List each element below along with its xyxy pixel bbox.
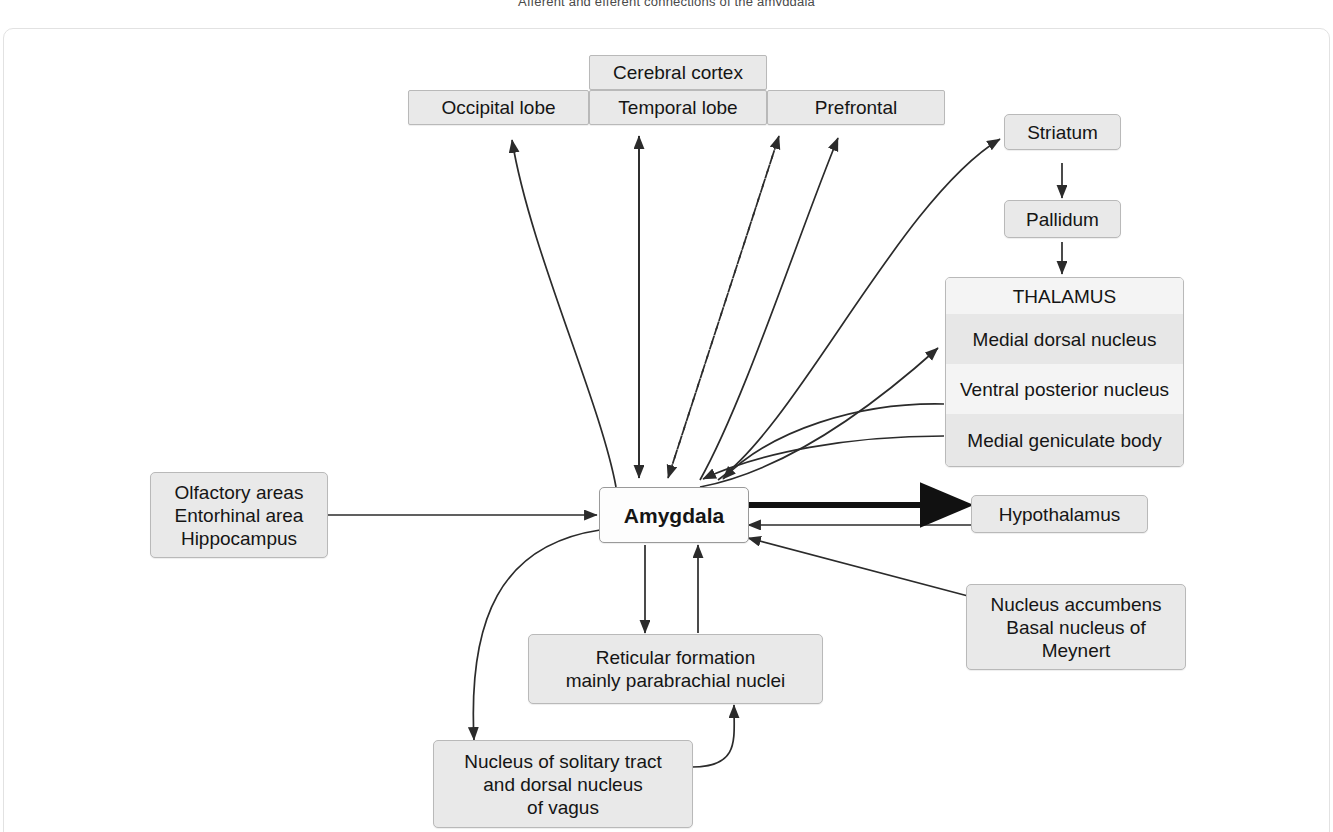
- diagram-page: Afferent and efferent connections of the…: [0, 0, 1333, 832]
- node-label: Pallidum: [1026, 208, 1099, 231]
- node-label: Ventral posterior nucleus: [960, 378, 1169, 401]
- page-title: Afferent and efferent connections of the…: [0, 0, 1333, 6]
- node-label-line3: of vagus: [527, 796, 599, 819]
- node-label-line2: Basal nucleus of: [1006, 616, 1145, 639]
- node-label-line1: Reticular formation: [596, 646, 755, 669]
- node-label-line2: mainly parabrachial nuclei: [566, 669, 786, 692]
- node-thalamus[interactable]: THALAMUS Medial dorsal nucleus Ventral p…: [945, 277, 1184, 467]
- node-label-line2: Entorhinal area: [175, 504, 304, 527]
- node-label: Prefrontal: [815, 96, 897, 119]
- node-label: Occipital lobe: [441, 96, 555, 119]
- node-label-line1: Olfactory areas: [175, 481, 304, 504]
- node-hypothalamus[interactable]: Hypothalamus: [971, 495, 1148, 533]
- node-cerebral-cortex[interactable]: Cerebral cortex: [589, 55, 767, 90]
- node-label-line1: Nucleus accumbens: [990, 593, 1161, 616]
- node-label: Hypothalamus: [999, 503, 1120, 526]
- node-label-line3: Meynert: [1042, 639, 1111, 662]
- node-label-line1: Nucleus of solitary tract: [464, 750, 661, 773]
- node-occipital-lobe[interactable]: Occipital lobe: [408, 90, 589, 125]
- node-olfactory-group[interactable]: Olfactory areas Entorhinal area Hippocam…: [150, 472, 328, 558]
- thalamus-medial-geniculate[interactable]: Medial geniculate body: [946, 414, 1183, 466]
- thalamus-medial-dorsal[interactable]: Medial dorsal nucleus: [946, 314, 1183, 364]
- node-amygdala[interactable]: Amygdala: [599, 487, 749, 543]
- node-label-line3: Hippocampus: [181, 527, 297, 550]
- node-label: Medial dorsal nucleus: [973, 328, 1157, 351]
- node-label: Striatum: [1027, 121, 1098, 144]
- node-pallidum[interactable]: Pallidum: [1004, 200, 1121, 238]
- node-solitary-tract[interactable]: Nucleus of solitary tract and dorsal nuc…: [433, 740, 693, 828]
- node-nucleus-accumbens[interactable]: Nucleus accumbens Basal nucleus of Meyne…: [966, 584, 1186, 670]
- node-reticular-formation[interactable]: Reticular formation mainly parabrachial …: [528, 634, 823, 704]
- node-prefrontal[interactable]: Prefrontal: [767, 90, 945, 125]
- node-label: THALAMUS: [1013, 285, 1116, 308]
- node-temporal-lobe[interactable]: Temporal lobe: [589, 90, 767, 125]
- node-label: Medial geniculate body: [967, 429, 1161, 452]
- node-label: Cerebral cortex: [613, 61, 743, 84]
- node-label: Amygdala: [624, 504, 724, 527]
- thalamus-ventral-posterior[interactable]: Ventral posterior nucleus: [946, 364, 1183, 414]
- thalamus-title: THALAMUS: [946, 278, 1183, 314]
- node-striatum[interactable]: Striatum: [1004, 114, 1121, 150]
- node-label-line2: and dorsal nucleus: [483, 773, 643, 796]
- node-label: Temporal lobe: [618, 96, 737, 119]
